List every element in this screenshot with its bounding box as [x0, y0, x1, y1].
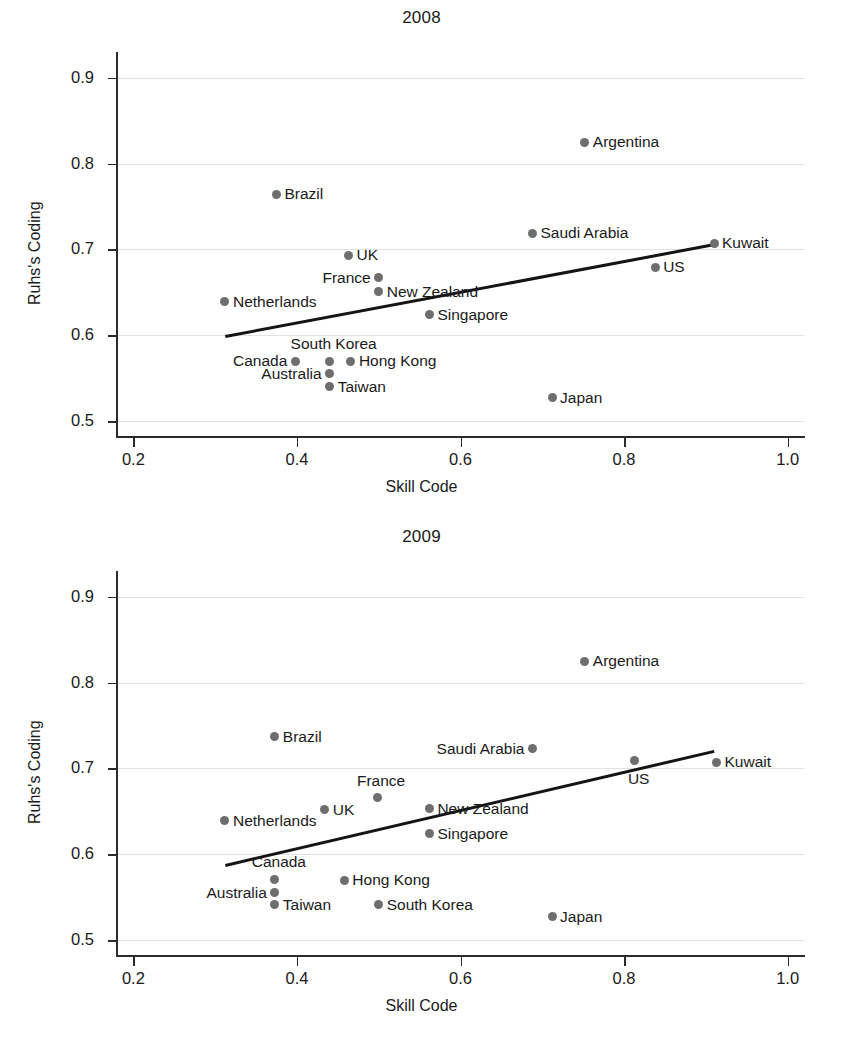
chart-panel-2009: 2009 0.50.60.70.80.90.20.40.60.81.0Skill… [0, 519, 843, 1038]
gridline-y [117, 597, 804, 598]
point-label: Singapore [437, 826, 508, 842]
y-axis-label: Ruhs's Coding [26, 201, 44, 305]
y-tick-label: 0.8 [48, 673, 94, 692]
data-point [270, 875, 279, 884]
data-point [220, 816, 229, 825]
point-label: Japan [560, 909, 602, 925]
point-label: Australia [261, 366, 321, 382]
gridline-y [117, 768, 804, 769]
gridline-y [117, 249, 804, 250]
point-label: Taiwan [338, 379, 386, 395]
point-label: South Korea [291, 336, 377, 352]
gridline-y [117, 164, 804, 165]
x-tick [297, 957, 299, 966]
data-point [320, 805, 329, 814]
point-label: South Korea [387, 897, 473, 913]
data-point [325, 382, 334, 391]
data-point [528, 229, 537, 238]
y-axis-line [116, 571, 118, 957]
data-point [580, 138, 589, 147]
x-tick [788, 957, 790, 966]
y-axis-label: Ruhs's Coding [26, 720, 44, 824]
y-tick-label: 0.6 [48, 325, 94, 344]
point-label: UK [333, 802, 355, 818]
x-tick-label: 0.2 [103, 969, 163, 988]
point-label: Brazil [283, 729, 322, 745]
point-label: Netherlands [233, 294, 317, 310]
x-tick-label: 1.0 [758, 450, 818, 469]
x-tick [461, 438, 463, 447]
data-point [425, 829, 434, 838]
point-label: US [628, 771, 650, 787]
y-tick-label: 0.7 [48, 239, 94, 258]
x-tick [624, 438, 626, 447]
x-tick-label: 0.4 [267, 450, 327, 469]
point-label: France [322, 270, 370, 286]
x-tick [133, 957, 135, 966]
data-point [270, 888, 279, 897]
chart-title-2009: 2009 [0, 527, 843, 547]
point-label: Kuwait [722, 236, 769, 252]
data-point [651, 263, 660, 272]
x-tick-label: 1.0 [758, 969, 818, 988]
data-point [373, 793, 382, 802]
data-point [548, 393, 557, 402]
point-label: Canada [252, 854, 306, 870]
point-label: Taiwan [283, 897, 331, 913]
point-label: Netherlands [233, 813, 317, 829]
y-tick [108, 597, 117, 599]
data-point [712, 758, 721, 767]
data-point [425, 804, 434, 813]
data-point [270, 732, 279, 741]
y-tick [108, 249, 117, 251]
x-tick [133, 438, 135, 447]
point-label: Hong Kong [359, 353, 437, 369]
data-point [528, 744, 537, 753]
y-tick [108, 421, 117, 423]
data-point [548, 912, 557, 921]
data-point [344, 251, 353, 260]
x-tick [297, 438, 299, 447]
chart-panel-2008: 2008 0.50.60.70.80.90.20.40.60.81.0Skill… [0, 0, 843, 519]
data-point [425, 310, 434, 319]
data-point [220, 297, 229, 306]
y-tick [108, 854, 117, 856]
point-label: US [663, 260, 685, 276]
y-tick-label: 0.5 [48, 930, 94, 949]
x-tick-label: 0.4 [267, 969, 327, 988]
data-point [272, 190, 281, 199]
x-tick [461, 957, 463, 966]
y-tick-label: 0.9 [48, 587, 94, 606]
point-label: New Zealand [437, 801, 528, 817]
gridline-y [117, 421, 804, 422]
gridline-y [117, 78, 804, 79]
x-axis-label: Skill Code [0, 478, 843, 496]
y-tick [108, 768, 117, 770]
x-tick [624, 957, 626, 966]
y-tick [108, 78, 117, 80]
y-tick-label: 0.7 [48, 758, 94, 777]
data-point [630, 756, 639, 765]
x-tick-label: 0.6 [431, 969, 491, 988]
y-axis-line [116, 52, 118, 438]
data-point [340, 876, 349, 885]
y-tick [108, 164, 117, 166]
point-label: Japan [560, 390, 602, 406]
y-tick-label: 0.5 [48, 411, 94, 430]
data-point [325, 357, 334, 366]
point-label: New Zealand [387, 284, 478, 300]
x-tick-label: 0.2 [103, 450, 163, 469]
data-point [346, 357, 355, 366]
gridline-y [117, 683, 804, 684]
gridline-y [117, 854, 804, 855]
data-point [374, 287, 383, 296]
x-tick-label: 0.8 [594, 450, 654, 469]
data-point [374, 900, 383, 909]
x-tick-label: 0.6 [431, 450, 491, 469]
data-point [374, 273, 383, 282]
y-tick-label: 0.6 [48, 844, 94, 863]
point-label: France [357, 772, 405, 788]
chart-title-2008: 2008 [0, 8, 843, 28]
point-label: Argentina [593, 653, 659, 669]
y-tick-label: 0.8 [48, 154, 94, 173]
